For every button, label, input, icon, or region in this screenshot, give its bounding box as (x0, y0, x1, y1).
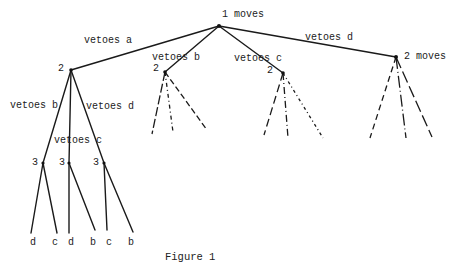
node-d (394, 55, 398, 59)
edge-a-vetoes-b (43, 70, 71, 163)
edge-leaf-c2 (104, 163, 107, 230)
dashed-edge (264, 73, 283, 135)
edge-a-vetoes-c (69, 70, 71, 163)
edge-label-vetoes-a: vetoes a (84, 36, 132, 46)
node-label-c: 2 (267, 66, 273, 76)
node-label-a: 2 (58, 64, 64, 74)
node-label-3c: 3 (93, 158, 99, 168)
leaf-label: c (52, 238, 58, 248)
node-label-d: 2 moves (404, 52, 446, 62)
node-label-b: 2 (153, 64, 159, 74)
edge-label-vetoes-c: vetoes c (234, 54, 282, 64)
edge-vetoes-a (71, 26, 219, 70)
node-b (163, 70, 167, 74)
node-3b (67, 161, 70, 164)
edge-vetoes-c (219, 26, 283, 73)
dashed-edge (283, 73, 323, 138)
dashed-edge (165, 72, 207, 130)
node-label-3b: 3 (59, 158, 65, 168)
node-3c (102, 161, 105, 164)
node-a (69, 68, 73, 72)
edge-label-a-vetoes-d: vetoes d (86, 102, 134, 112)
edge-vetoes-b (165, 26, 219, 72)
node-c (281, 71, 285, 75)
edge-label-vetoes-d: vetoes d (305, 33, 353, 43)
leaf-label: b (90, 238, 96, 248)
leaf-label: b (128, 238, 134, 248)
node-3a (41, 161, 44, 164)
edge-leaf-d1 (31, 163, 43, 233)
edge-label-vetoes-b: vetoes b (152, 53, 200, 63)
edge-leaf-c1 (43, 163, 57, 233)
edge-a-vetoes-d (71, 70, 104, 163)
dashed-edge (396, 57, 406, 138)
edge-leaf-b2 (104, 163, 133, 232)
root-node (217, 24, 221, 28)
node-label-3a: 3 (32, 158, 38, 168)
dashed-edge (152, 72, 165, 134)
dashed-edge (370, 57, 396, 138)
root-label: 1 moves (222, 10, 264, 20)
leaf-label: c (106, 238, 112, 248)
edge-leaf-b1 (69, 163, 95, 230)
leaf-label: d (68, 238, 74, 248)
leaf-label: d (30, 238, 36, 248)
dashed-edge (283, 73, 288, 138)
figure-caption: Figure 1 (165, 251, 215, 263)
edge-label-a-vetoes-c: vetoes c (54, 136, 102, 146)
edge-label-a-vetoes-b: vetoes b (10, 101, 58, 111)
